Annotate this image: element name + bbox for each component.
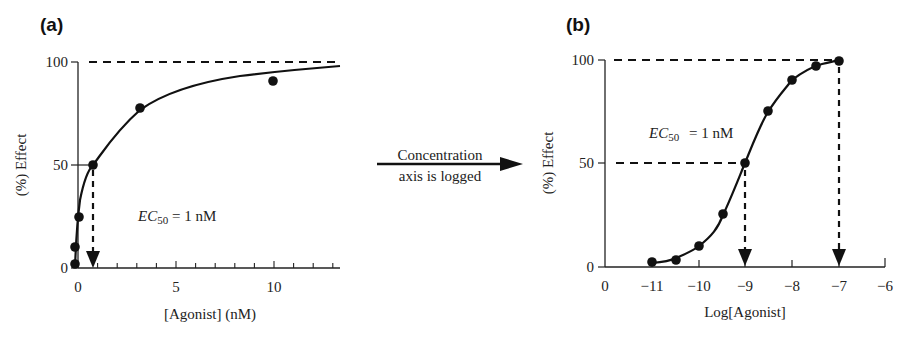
transform-label-line1: Concentration [398,147,483,163]
x-ticks [652,258,885,267]
y-tick-50: 50 [53,157,68,173]
data-point [718,209,728,219]
data-point [787,75,797,85]
y-ticks: 100 50 0 [46,54,91,276]
y-ticks [598,60,605,267]
panel-a: (a) 100 50 0 0 [13,14,340,323]
data-point [740,158,750,168]
x-tick-minus-11: −11 [641,278,664,294]
ec50-annotation: EC50 = 1 nM [648,125,733,143]
y-tick-100: 100 [572,52,595,68]
dose-response-curve [75,66,340,268]
data-points [70,76,278,269]
x-tick-10: 10 [267,279,282,295]
x-ticks [98,261,333,268]
data-point [135,103,145,113]
data-point [268,76,278,86]
x-tick-0: 0 [74,279,82,295]
y-axis-title: (%) Effect [13,133,30,196]
x-tick-minus-10: −10 [687,278,710,294]
x-axis-title: Log[Agonist] [704,304,786,320]
data-point [70,259,80,269]
data-point [647,257,657,267]
data-point [70,242,80,252]
x-tick-minus-6: −6 [877,278,893,294]
x-tick-5: 5 [172,279,180,295]
figure-canvas: (a) 100 50 0 0 [0,0,914,344]
max-arrowhead-icon [832,249,846,266]
x-tick-0: 0 [601,278,609,294]
data-point [811,61,821,71]
arrow-right-icon [500,157,523,171]
x-axis-title: [Agonist] (nM) [164,306,256,323]
y-tick-0: 0 [61,260,69,276]
panel-b-label: (b) [566,14,590,35]
data-point [671,255,681,265]
x-tick-minus-7: −7 [831,278,847,294]
y-tick-0: 0 [587,259,595,275]
ec50-arrowhead-icon [738,249,752,266]
y-tick-50: 50 [579,155,594,171]
data-point [834,56,844,66]
data-point [763,106,773,116]
transform-label-line2: axis is logged [399,168,482,184]
panel-a-label: (a) [40,14,63,35]
x-tick-minus-9: −9 [737,278,753,294]
x-tick-minus-8: −8 [784,278,800,294]
data-point [694,241,704,251]
panel-b: (b) 100 50 0 0 −11 −10 −9 −8 −7 −6 Log[ [540,14,893,320]
transform-arrow: Concentration axis is logged [377,147,523,184]
data-points [647,56,844,267]
data-point [74,212,84,222]
y-tick-100: 100 [46,54,69,70]
data-point [88,160,98,170]
ec50-annotation: EC50 = 1 nM [137,208,216,226]
y-axis-title: (%) Effect [540,131,557,194]
